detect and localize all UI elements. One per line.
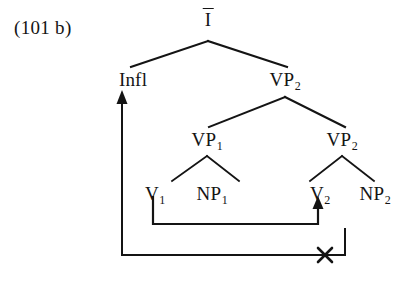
node-label-vp1: VP1 — [192, 130, 223, 149]
v1-text: V — [145, 183, 159, 204]
vp1-text: VP — [192, 129, 217, 150]
node-label-vp2-upper: VP2 — [270, 70, 301, 89]
np1-text: NP — [197, 183, 222, 204]
v2-to-infl-arrowhead — [117, 90, 128, 104]
node-label-v1: V1 — [145, 184, 165, 203]
v1-subscript: 1 — [159, 193, 165, 207]
vp1-subscript: 1 — [217, 139, 223, 153]
root-symbol: I — [204, 10, 213, 29]
vp2-upper-text: VP — [270, 69, 295, 90]
branch-root-to-infl — [131, 41, 208, 67]
node-label-np1: NP1 — [197, 184, 228, 203]
node-label-vp2-lower: VP2 — [327, 130, 358, 149]
vp2-upper-subscript: 2 — [295, 79, 301, 93]
figure-canvas: (101 b) — [0, 0, 419, 285]
node-label-v2: V2 — [310, 184, 330, 203]
node-label-np2: NP2 — [360, 184, 391, 203]
v1-to-v2-movement-arrow — [153, 196, 318, 224]
branch-vp2-to-vp1 — [209, 97, 285, 127]
v2-text: V — [310, 183, 324, 204]
v2-subscript: 2 — [324, 193, 330, 207]
np1-subscript: 1 — [222, 193, 228, 207]
node-label-root: I — [204, 10, 213, 29]
node-label-infl: Infl — [119, 70, 147, 89]
branch-vp1-to-v1 — [172, 156, 207, 181]
branch-vp2lower-to-v2 — [310, 156, 342, 181]
vp2-lower-text: VP — [327, 129, 352, 150]
np2-text: NP — [360, 183, 385, 204]
vp2-lower-subscript: 2 — [352, 139, 358, 153]
branch-vp1-to-np1 — [207, 156, 239, 181]
branch-vp2lower-to-np2 — [342, 156, 374, 181]
np2-subscript: 2 — [385, 193, 391, 207]
branch-vp2-to-vp2lower — [285, 97, 345, 127]
infl-text: Infl — [119, 69, 147, 90]
v2-to-infl-movement-arrow — [122, 101, 345, 255]
branch-root-to-vp2 — [208, 41, 287, 67]
